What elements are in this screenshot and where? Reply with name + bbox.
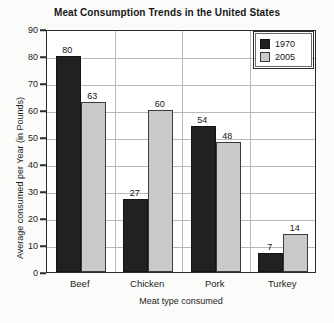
bar — [81, 102, 106, 272]
legend-label: 2005 — [275, 52, 295, 62]
bar-value-label: 63 — [87, 91, 97, 101]
bar — [148, 110, 173, 272]
bar-value-label: 60 — [155, 99, 165, 109]
y-axis-tick-mark — [40, 56, 46, 58]
legend-item[interactable]: 1970 — [260, 37, 307, 50]
legend-swatch-icon — [260, 52, 270, 62]
bar-chart: Meat Consumption Trends in the United St… — [0, 0, 334, 323]
gridline-horizontal — [47, 85, 315, 86]
x-axis-category-label: Beef — [70, 278, 90, 289]
x-axis-category-label: Turkey — [268, 278, 297, 289]
x-axis-title: Meat type consumed — [46, 296, 316, 306]
legend-swatch-icon — [260, 39, 270, 49]
bar-value-label: 7 — [267, 242, 272, 252]
bar-value-label: 80 — [62, 45, 72, 55]
y-axis-tick-label: 0 — [14, 268, 38, 278]
gridline-vertical — [115, 31, 116, 272]
bar-value-label: 27 — [130, 188, 140, 198]
x-axis-category-label: Chicken — [130, 278, 164, 289]
y-axis-title: Average consumed per Year (in Pounds) — [15, 97, 25, 259]
gridline-vertical — [182, 31, 183, 272]
legend-label: 1970 — [275, 39, 295, 49]
y-axis-tick-mark — [40, 218, 46, 220]
y-axis-tick-mark — [40, 29, 46, 31]
y-axis-tick-mark — [40, 191, 46, 193]
bar-value-label: 14 — [290, 223, 300, 233]
y-axis-tick-mark — [40, 272, 46, 274]
y-axis-tick-mark — [40, 245, 46, 247]
bar-value-label: 54 — [197, 115, 207, 125]
bar — [123, 199, 148, 272]
x-axis-category-label: Pork — [205, 278, 225, 289]
y-axis-tick-label: 70 — [14, 79, 38, 89]
gridline-vertical — [250, 31, 251, 272]
y-axis-tick-label: 90 — [14, 25, 38, 35]
bar — [283, 234, 308, 272]
bar — [191, 126, 216, 272]
y-axis-tick-mark — [40, 110, 46, 112]
bar — [216, 142, 241, 272]
bar — [258, 253, 283, 272]
y-axis-tick-label: 80 — [14, 52, 38, 62]
bar — [56, 56, 81, 272]
y-axis-tick-mark — [40, 137, 46, 139]
chart-title: Meat Consumption Trends in the United St… — [0, 7, 334, 18]
legend-item[interactable]: 2005 — [260, 50, 307, 63]
bar-value-label: 48 — [222, 131, 232, 141]
y-axis-tick-mark — [40, 83, 46, 85]
y-axis-tick-mark — [40, 164, 46, 166]
legend: 1970 2005 — [255, 33, 312, 67]
